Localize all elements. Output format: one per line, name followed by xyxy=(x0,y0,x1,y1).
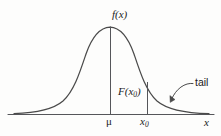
mean-symbol-text: μ xyxy=(106,115,112,127)
density-function-label: f(x) xyxy=(112,9,127,20)
bell-curve-icon xyxy=(14,27,209,114)
x-axis-text: x xyxy=(204,116,209,128)
normal-distribution-figure: f(x) F(x0) tail μ x0 x xyxy=(0,0,221,136)
cumulative-function-base: F(x xyxy=(118,85,133,97)
density-function-text: f(x) xyxy=(112,8,127,20)
tail-callout-text: tail xyxy=(195,76,208,88)
cumulative-area-label: F(x0) xyxy=(118,86,141,97)
x-axis-label: x xyxy=(204,117,209,128)
tail-callout-label: tail xyxy=(195,77,208,88)
cumulative-function-subscript: 0 xyxy=(133,90,137,99)
cumulative-function-close: ) xyxy=(137,85,141,97)
axis-tick-label-mean: μ xyxy=(106,116,112,127)
tail-pointer-arrow-icon xyxy=(172,83,194,99)
axis-tick-label-x0: x0 xyxy=(140,116,149,127)
x-value-subscript: 0 xyxy=(145,120,149,129)
